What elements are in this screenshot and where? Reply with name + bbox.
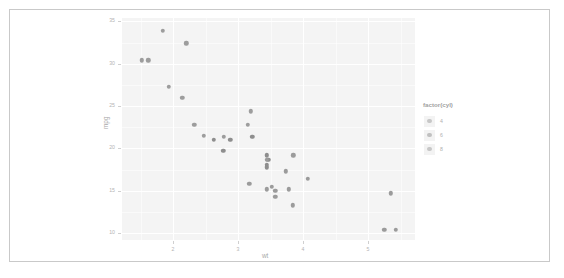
legend-item-label: 4 (440, 119, 443, 124)
gridline-horizontal-minor (122, 43, 415, 44)
legend-item-label: 6 (440, 133, 443, 138)
screenshot-root: 1015202530352345 mpg wt factor(cyl) 468 (0, 0, 564, 278)
y-tick-label: 35 (99, 18, 115, 23)
gridline-horizontal-major (122, 64, 415, 65)
y-tick-mark (118, 106, 121, 107)
legend-point-icon (427, 147, 431, 151)
legend-items: 468 (424, 114, 453, 156)
y-tick-label: 30 (99, 61, 115, 66)
x-tick-mark (238, 241, 239, 244)
gridline-vertical-major (238, 18, 239, 240)
gridline-horizontal-major (122, 106, 415, 107)
gridline-horizontal-major (122, 148, 415, 149)
legend-point-icon (427, 119, 431, 123)
gridline-horizontal-minor (122, 212, 415, 213)
y-tick-mark (118, 21, 121, 22)
x-tick-label: 3 (230, 247, 246, 252)
gridline-vertical-minor (336, 18, 337, 240)
x-axis-title: wt (262, 253, 268, 259)
x-tick-label: 5 (360, 247, 376, 252)
legend: factor(cyl) 468 (424, 102, 453, 156)
y-tick-label: 25 (99, 103, 115, 108)
gridline-vertical-major (303, 18, 304, 240)
gridline-horizontal-major (122, 233, 415, 234)
x-tick-mark (368, 241, 369, 244)
gridline-horizontal-major (122, 21, 415, 22)
gridline-vertical-minor (141, 18, 142, 240)
legend-item-label: 8 (440, 147, 443, 152)
gridline-horizontal-minor (122, 170, 415, 171)
y-tick-label: 20 (99, 145, 115, 150)
gridline-vertical-minor (206, 18, 207, 240)
y-tick-mark (118, 191, 121, 192)
gridline-vertical-minor (271, 18, 272, 240)
scatter-plot: 1015202530352345 mpg wt factor(cyl) 468 (0, 0, 564, 278)
y-tick-mark (118, 148, 121, 149)
legend-key-swatch (424, 116, 435, 127)
x-tick-label: 2 (165, 247, 181, 252)
legend-item[interactable]: 6 (424, 128, 453, 142)
y-tick-label: 10 (99, 230, 115, 235)
legend-item[interactable]: 4 (424, 114, 453, 128)
legend-point-icon (427, 133, 431, 137)
x-tick-mark (173, 241, 174, 244)
legend-key-swatch (424, 130, 435, 141)
y-axis-title: mpg (103, 117, 109, 129)
y-tick-mark (118, 64, 121, 65)
legend-item[interactable]: 8 (424, 142, 453, 156)
plot-panel-background (122, 18, 415, 240)
gridline-horizontal-minor (122, 127, 415, 128)
y-tick-label: 15 (99, 188, 115, 193)
gridline-vertical-minor (401, 18, 402, 240)
gridline-vertical-major (368, 18, 369, 240)
y-tick-mark (118, 233, 121, 234)
x-tick-mark (303, 241, 304, 244)
gridline-horizontal-major (122, 191, 415, 192)
gridline-vertical-major (173, 18, 174, 240)
x-tick-label: 4 (295, 247, 311, 252)
legend-title: factor(cyl) (423, 102, 453, 108)
legend-key-swatch (424, 144, 435, 155)
